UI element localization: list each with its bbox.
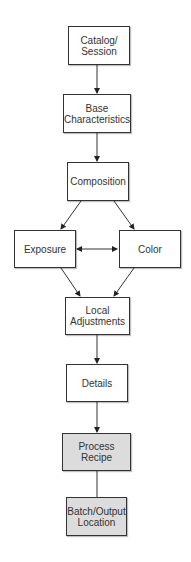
node-process-recipe: ProcessRecipe [62,433,131,471]
node-details: Details [66,364,128,402]
node-label-line2: Location [67,517,125,528]
node-label-line1: Process [78,441,114,452]
node-label-line1: Catalog/ [80,35,117,46]
node-batch-output-location: Batch/OutputLocation [66,497,127,536]
node-catalog-session: Catalog/Session [68,26,130,65]
node-color: Color [119,230,181,268]
node-label-line1: Batch/Output [67,506,125,517]
node-label-line2: Adjustments [70,316,125,327]
node-label-line2: Characteristics [64,114,130,125]
node-exposure: Exposure [14,230,76,268]
node-label-line2: Session [80,46,117,57]
node-label: Color [138,244,162,255]
node-label: Composition [70,176,126,187]
node-label-line1: Base [64,103,130,114]
node-label-line2: Recipe [78,452,114,463]
node-local-adjustments: LocalAdjustments [65,297,130,335]
node-label-line1: Local [70,305,125,316]
edge-composition-exposure [61,201,81,229]
node-base-characteristics: BaseCharacteristics [63,94,131,133]
edge-composition-color [114,201,134,229]
node-label: Exposure [24,244,66,255]
edge-color-local [114,268,134,296]
edge-exposure-local [61,268,80,296]
node-composition: Composition [67,162,129,201]
edges-layer [0,0,191,562]
node-label: Details [82,378,113,389]
